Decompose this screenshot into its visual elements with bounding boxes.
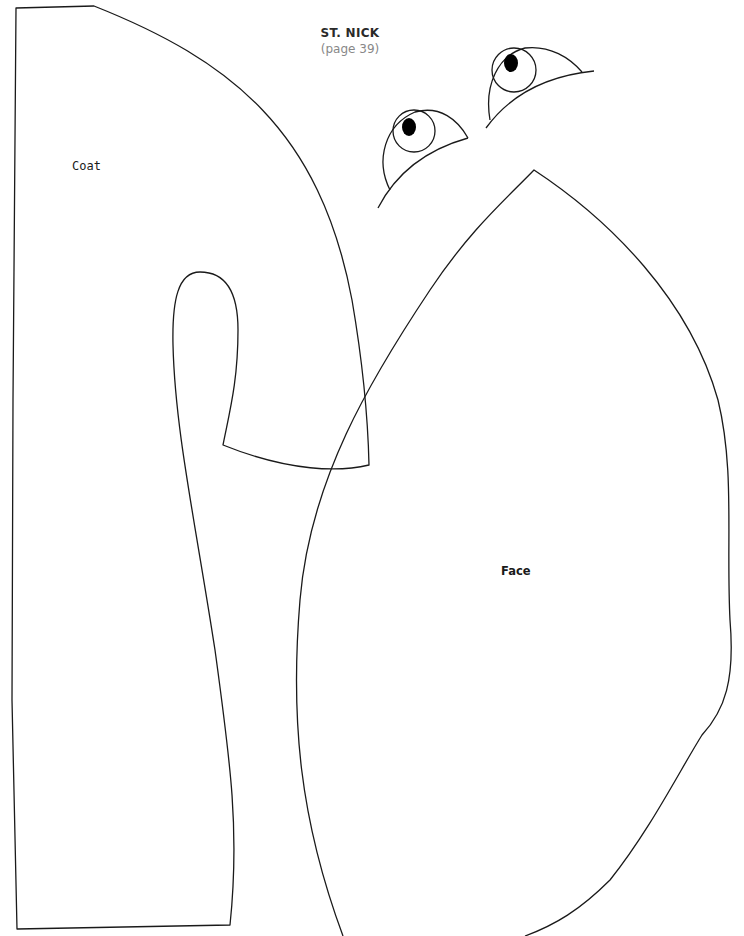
eye-right-lower xyxy=(486,71,594,128)
coat-outline xyxy=(12,6,369,929)
eye-left-lower xyxy=(378,138,468,208)
pattern-page: ST. NICK (page 39) Coat Face xyxy=(0,0,744,936)
eye-right-pupil xyxy=(504,54,518,72)
eye-left-lid xyxy=(383,110,468,190)
page-reference: (page 39) xyxy=(280,41,420,57)
face-label: Face xyxy=(501,564,531,578)
page-header: ST. NICK (page 39) xyxy=(280,25,420,57)
page-title: ST. NICK xyxy=(280,25,420,41)
eye-right-piece xyxy=(486,48,594,128)
pattern-outlines xyxy=(0,0,744,936)
eye-left-piece xyxy=(378,110,468,208)
coat-label: Coat xyxy=(72,159,101,173)
face-outline xyxy=(296,170,731,936)
eye-left-pupil xyxy=(402,118,416,136)
